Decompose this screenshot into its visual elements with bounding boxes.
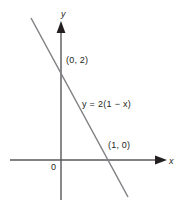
y-intercept-label: (0, 2) [66,56,88,65]
x-axis-label: x [169,157,174,166]
y-axis [57,21,66,200]
y-axis-arrow-icon [57,21,66,33]
line-graph-figure: (0, 2) y = 2(1 − x) (1, 0) 0 y x [0,0,180,208]
x-axis [10,156,167,165]
equation-label: y = 2(1 − x) [82,100,131,109]
y-axis-label: y [61,10,66,19]
x-axis-arrow-icon [155,156,167,165]
x-intercept-label: (1, 0) [108,141,130,150]
origin-label: 0 [51,163,56,172]
